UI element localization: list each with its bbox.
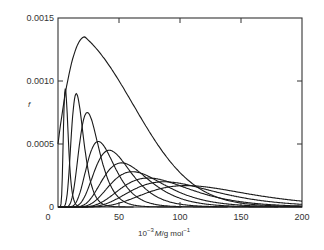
y-tick-label: 0.0015 bbox=[26, 13, 54, 23]
x-tick-label: 200 bbox=[294, 212, 309, 222]
chart: 05010015020000.00050.00100.0015 f 10−3M/… bbox=[0, 0, 324, 250]
x-tick-label: 100 bbox=[172, 212, 187, 222]
x-axis-label: 10−3M/g mol−1 bbox=[138, 227, 191, 238]
curve-fraction-7 bbox=[59, 172, 302, 207]
y-tick-label: 0.0010 bbox=[26, 76, 54, 86]
curve-fraction-3 bbox=[59, 113, 182, 208]
curves bbox=[58, 37, 302, 207]
tick-labels: 05010015020000.00050.00100.0015 bbox=[26, 13, 309, 222]
y-tick-label: 0 bbox=[49, 202, 54, 212]
x-tick-label: 50 bbox=[114, 212, 124, 222]
y-tick-label: 0.0005 bbox=[26, 139, 54, 149]
x-tick-label: 0 bbox=[45, 212, 50, 222]
y-axis-label: f bbox=[28, 100, 31, 109]
x-tick-label: 150 bbox=[233, 212, 248, 222]
curve-envelope bbox=[58, 37, 302, 207]
